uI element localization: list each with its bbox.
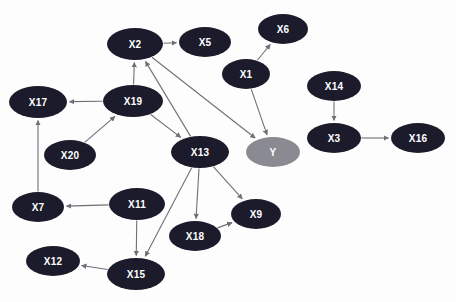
graph-edge [82,265,108,269]
node-shape [44,140,96,170]
node-shape [222,59,270,89]
graph-node-x12[interactable]: X12 [26,246,80,276]
graph-edge [66,205,108,206]
node-shape [258,14,308,44]
graph-node-y[interactable]: Y [246,137,300,167]
node-shape [307,71,361,101]
graph-node-x18[interactable]: X18 [169,221,221,251]
node-shape [391,123,445,153]
node-shape [171,136,229,168]
graph-node-x14[interactable]: X14 [307,71,361,101]
node-shape [231,199,281,229]
graph-node-x17[interactable]: X17 [9,86,67,118]
node-shape [307,123,361,153]
graph-node-x5[interactable]: X5 [179,27,231,57]
graph-node-x16[interactable]: X16 [391,123,445,153]
graph-node-x9[interactable]: X9 [231,199,281,229]
node-shape [9,86,67,118]
node-shape [246,137,300,167]
graph-node-x3[interactable]: X3 [307,123,361,153]
graph-edge [213,167,242,199]
graph-svg: X2X5X6X1X17X19X14X3X16X20X13YX7X11X18X9X… [0,0,456,302]
graph-node-x11[interactable]: X11 [109,188,165,220]
node-shape [12,192,64,222]
graph-edge [257,45,270,61]
node-shape [179,27,231,57]
nodes-layer: X2X5X6X1X17X19X14X3X16X20X13YX7X11X18X9X… [9,14,445,290]
graph-node-x15[interactable]: X15 [107,258,165,290]
graph-node-x1[interactable]: X1 [222,59,270,89]
graph-node-x20[interactable]: X20 [44,140,96,170]
graph-edge [218,223,233,228]
graph-node-x2[interactable]: X2 [107,28,163,60]
node-shape [107,258,165,290]
node-shape [26,246,80,276]
graph-canvas: X2X5X6X1X17X19X14X3X16X20X13YX7X11X18X9X… [0,0,456,302]
graph-node-x13[interactable]: X13 [171,136,229,168]
node-shape [107,28,163,60]
graph-edge [151,114,181,137]
node-shape [169,221,221,251]
node-shape [103,85,163,117]
graph-edge [251,89,267,135]
node-shape [109,188,165,220]
graph-edge [196,168,199,218]
graph-node-x7[interactable]: X7 [12,192,64,222]
graph-node-x6[interactable]: X6 [258,14,308,44]
graph-node-x19[interactable]: X19 [103,85,163,117]
graph-edge [85,116,115,142]
graph-edge [134,63,135,85]
graph-edge [136,221,137,256]
